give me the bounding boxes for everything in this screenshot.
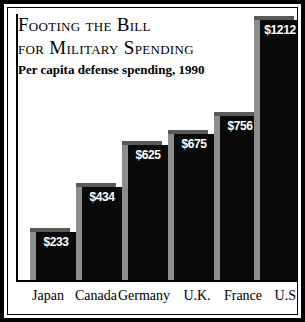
category-label-germany: Germany [115,287,173,305]
bar-shape: $675 [168,130,214,280]
y-axis-line [16,14,18,282]
category-label-us: U.S. [258,287,298,305]
bar-value-label: $625 [128,148,168,162]
category-axis: Japan Canada Germany U.K. France U.S. [14,284,298,314]
bar-value-label: $434 [82,190,122,204]
baseline-rule [16,280,298,282]
bar-germany: $625 [122,141,168,280]
chart-inner-frame: Footing the Bill for Military Spending P… [7,7,298,315]
bar-front-face [128,145,168,280]
bar-front-face [260,20,298,280]
bar-shape: $233 [30,228,76,280]
chart-frame: Footing the Bill for Military Spending P… [0,0,305,322]
bar-value-label: $1212 [260,23,298,37]
plot-area: $233 $434 $625 [14,14,298,282]
bar-shape: $434 [76,183,122,280]
bar-canada: $434 [76,183,122,280]
bar-shape: $1212 [254,16,298,280]
bar-us: $1212 [254,16,298,280]
bar-value-label: $233 [36,235,76,249]
bar-value-label: $675 [174,137,214,151]
bar-japan: $233 [30,228,76,280]
bar-uk: $675 [168,130,214,280]
bar-front-face [174,134,214,280]
bar-shape: $625 [122,141,168,280]
